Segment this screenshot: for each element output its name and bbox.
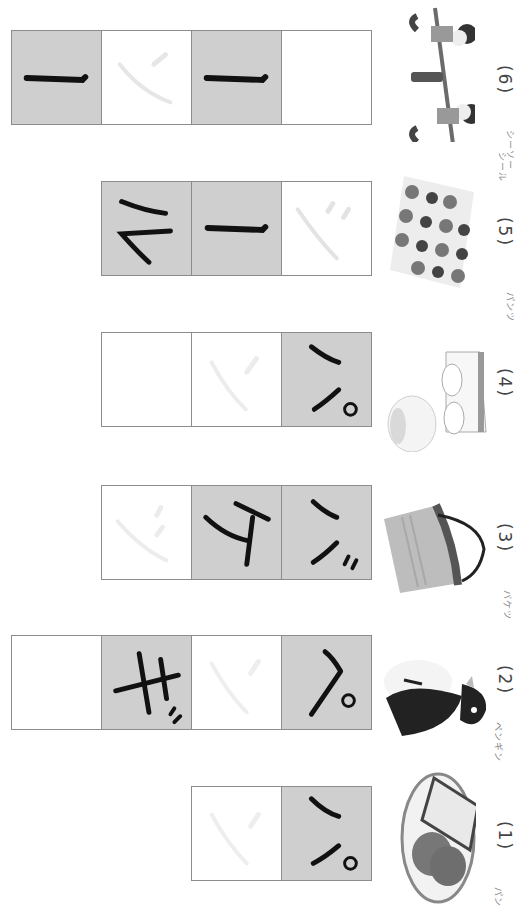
answer-cell-6-4 — [11, 30, 102, 125]
penguin-illustration — [382, 640, 492, 740]
bucket-illustration — [380, 493, 490, 593]
glyph-pa — [282, 333, 371, 426]
problem-3-boxes — [98, 485, 372, 580]
trace-cell-5-1[interactable] — [281, 181, 372, 276]
sticker-sheet-illustration — [386, 170, 478, 292]
trace-cell-1-2[interactable] — [191, 786, 282, 881]
answer-cell-6-2 — [191, 30, 282, 125]
problem-number-4: (4) — [495, 368, 515, 398]
glyph-pe — [282, 636, 371, 729]
problem-number-1: (1) — [495, 821, 515, 851]
answer-cell-2-1 — [281, 635, 372, 730]
reading-hint-1: パン — [492, 887, 505, 907]
problem-number-3: (3) — [495, 523, 515, 553]
glyph-shi-trace — [282, 182, 371, 275]
trace-cell-6-3[interactable] — [101, 30, 192, 125]
answer-cell-4-3[interactable] — [101, 332, 192, 427]
glyph-long-vowel — [12, 31, 101, 124]
underwear-illustration — [382, 322, 492, 452]
glyph-long-vowel — [192, 31, 281, 124]
bread-plate-illustration — [394, 770, 476, 905]
answer-cell-2-4[interactable] — [11, 635, 102, 730]
seesaw-illustration — [395, 4, 475, 142]
problem-4-boxes — [98, 332, 372, 427]
answer-cell-3-2 — [191, 485, 282, 580]
problem-2-boxes — [6, 635, 372, 730]
glyph-long-vowel — [192, 182, 281, 275]
reading-hint-4: パンツ — [504, 292, 517, 322]
answer-cell-2-3 — [101, 635, 192, 730]
glyph-n-trace — [192, 787, 281, 880]
glyph-n-trace — [192, 333, 281, 426]
problem-number-2: (2) — [495, 665, 515, 695]
answer-cell-3-1 — [281, 485, 372, 580]
problem-number-6: (6) — [495, 65, 515, 95]
reading-hint-5: シール — [496, 152, 509, 182]
glyph-so-trace — [102, 31, 191, 124]
reading-hint-2: ペンギン — [492, 722, 505, 762]
glyph-pa — [282, 787, 371, 880]
answer-cell-6-1[interactable] — [281, 30, 372, 125]
glyph-ru — [102, 182, 191, 275]
problem-5-boxes — [98, 181, 372, 276]
problem-6-boxes — [6, 30, 372, 125]
problem-1-boxes — [190, 786, 372, 881]
answer-cell-1-1 — [281, 786, 372, 881]
trace-cell-2-2[interactable] — [191, 635, 282, 730]
glyph-ba — [282, 486, 371, 579]
answer-cell-4-1 — [281, 332, 372, 427]
glyph-n-trace — [192, 636, 281, 729]
trace-cell-3-3[interactable] — [101, 485, 192, 580]
glyph-ke — [192, 486, 281, 579]
answer-cell-5-3 — [101, 181, 192, 276]
answer-cell-5-2 — [191, 181, 282, 276]
glyph-tsu-trace — [102, 486, 191, 579]
glyph-gi — [102, 636, 191, 729]
problem-number-5: (5) — [495, 217, 515, 247]
trace-cell-4-2[interactable] — [191, 332, 282, 427]
reading-hint-3: バケツ — [501, 590, 514, 620]
